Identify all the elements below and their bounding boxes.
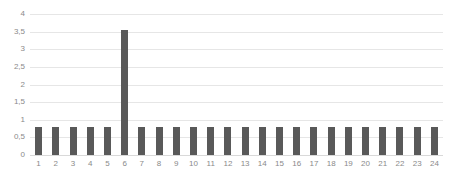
bar bbox=[104, 127, 111, 155]
x-tick-label: 11 bbox=[207, 160, 215, 168]
bar bbox=[156, 127, 163, 155]
x-tick-label: 8 bbox=[157, 160, 161, 168]
axis-baseline bbox=[30, 155, 443, 156]
bar bbox=[52, 127, 59, 155]
bar bbox=[362, 127, 369, 155]
bars bbox=[30, 14, 443, 155]
x-tick-label: 21 bbox=[378, 160, 387, 168]
y-tick-label: 4 bbox=[21, 10, 25, 18]
x-tick-label: 19 bbox=[344, 160, 353, 168]
bar bbox=[379, 127, 386, 155]
x-tick-label: 7 bbox=[140, 160, 144, 168]
x-tick-label: 17 bbox=[309, 160, 318, 168]
bar bbox=[276, 127, 283, 155]
bar bbox=[345, 127, 352, 155]
bar bbox=[70, 127, 77, 155]
bar bbox=[224, 127, 231, 155]
x-tick-label: 12 bbox=[223, 160, 232, 168]
bar bbox=[293, 127, 300, 155]
bar bbox=[173, 127, 180, 155]
y-tick-label: 1 bbox=[21, 116, 25, 124]
bar-chart: 00,511,522,533,54 1234567891011121314151… bbox=[0, 0, 456, 183]
y-tick-label: 2 bbox=[21, 81, 25, 89]
x-tick-label: 23 bbox=[413, 160, 422, 168]
x-tick-label: 14 bbox=[258, 160, 267, 168]
y-tick-label: 2,5 bbox=[14, 63, 25, 71]
x-tick-label: 22 bbox=[396, 160, 405, 168]
x-tick-label: 18 bbox=[327, 160, 336, 168]
x-tick-label: 24 bbox=[430, 160, 439, 168]
bar bbox=[207, 127, 214, 155]
x-tick-label: 9 bbox=[174, 160, 178, 168]
bar bbox=[242, 127, 249, 155]
x-tick-label: 16 bbox=[292, 160, 301, 168]
x-tick-label: 3 bbox=[71, 160, 75, 168]
x-tick-label: 10 bbox=[189, 160, 198, 168]
x-axis: 123456789101112131415161718192021222324 bbox=[30, 160, 443, 178]
plot-area bbox=[30, 14, 443, 155]
y-tick-label: 0,5 bbox=[14, 133, 25, 141]
y-tick-label: 3 bbox=[21, 45, 25, 53]
x-tick-label: 13 bbox=[241, 160, 250, 168]
x-tick-label: 4 bbox=[88, 160, 92, 168]
bar bbox=[396, 127, 403, 155]
y-axis: 00,511,522,533,54 bbox=[0, 0, 25, 183]
bar bbox=[310, 127, 317, 155]
bar bbox=[35, 127, 42, 155]
bar bbox=[414, 127, 421, 155]
bar bbox=[431, 127, 438, 155]
y-tick-label: 1,5 bbox=[14, 98, 25, 106]
bar bbox=[121, 30, 128, 155]
bar bbox=[138, 127, 145, 155]
bar bbox=[328, 127, 335, 155]
bar bbox=[259, 127, 266, 155]
y-tick-label: 3,5 bbox=[14, 28, 25, 36]
x-tick-label: 6 bbox=[122, 160, 126, 168]
x-tick-label: 5 bbox=[105, 160, 109, 168]
x-tick-label: 20 bbox=[361, 160, 370, 168]
bar bbox=[190, 127, 197, 155]
x-tick-label: 1 bbox=[36, 160, 40, 168]
bar bbox=[87, 127, 94, 155]
x-tick-label: 2 bbox=[54, 160, 58, 168]
y-tick-label: 0 bbox=[21, 151, 25, 159]
x-tick-label: 15 bbox=[275, 160, 284, 168]
